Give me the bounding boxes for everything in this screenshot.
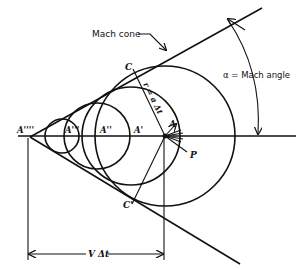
label-A4: A''''	[16, 125, 34, 135]
label-alpha: α = Mach angle	[223, 70, 290, 80]
mach-cone-leader	[138, 34, 166, 50]
label-A1: A'	[133, 125, 143, 135]
label-C: C	[125, 62, 133, 72]
label-v-dt: V Δt	[88, 249, 110, 259]
label-P: P	[189, 150, 197, 160]
label-A: A	[168, 119, 176, 129]
mach-cone-lower-line	[30, 137, 240, 264]
label-A2: A''	[99, 125, 112, 135]
label-mach-cone: Mach cone	[92, 29, 141, 39]
mach-cone-diagram: Mach cone α = Mach angle C C' A A' A'' A…	[0, 0, 300, 270]
label-C-prime: C'	[123, 200, 133, 210]
radius-line-C-prime	[132, 136, 165, 204]
label-A3: A'''	[64, 125, 79, 135]
